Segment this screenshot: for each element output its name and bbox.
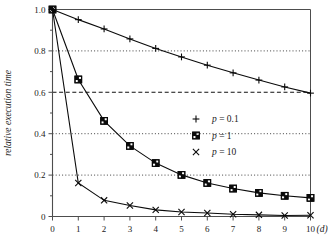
data-point-marker: [101, 118, 108, 125]
data-point-marker: [307, 90, 314, 97]
series-line: [53, 10, 311, 198]
x-axis-tick-label: 2: [102, 224, 107, 234]
x-axis-tick-label: 4: [153, 224, 158, 234]
series-2: [49, 6, 314, 201]
data-point-marker: [281, 193, 288, 200]
y-axis-tick-label: 0.2: [34, 170, 45, 180]
y-axis-tick-label: 0.4: [34, 129, 46, 139]
x-axis-tick-label: 5: [179, 224, 184, 234]
series-3: [49, 6, 313, 218]
legend-label-3: p = 10: [211, 147, 237, 157]
data-point-marker: [152, 160, 159, 167]
x-axis-tick-label: 7: [231, 224, 236, 234]
legend-marker-3: [193, 149, 199, 155]
data-point-marker: [204, 180, 211, 187]
x-axis-tick-label: 6: [205, 224, 210, 234]
data-point-marker: [178, 54, 185, 61]
chart-legend: p = 0.1p = 1p = 10: [193, 114, 239, 157]
data-point-marker: [230, 69, 237, 76]
legend-label-1: p = 0.1: [211, 114, 239, 124]
data-point-marker: [204, 62, 211, 69]
series-group: [49, 6, 314, 218]
data-point-marker: [281, 84, 288, 91]
gridlines-group: [53, 51, 311, 175]
data-point-marker: [75, 16, 82, 23]
data-point-marker: [152, 45, 159, 52]
x-axis-unit-label: (d): [317, 224, 328, 235]
chart-container: 00.20.40.60.81.0012345678910relative exe…: [0, 0, 333, 247]
x-axis-tick-label: 1: [76, 224, 81, 234]
line-chart: 00.20.40.60.81.0012345678910relative exe…: [0, 0, 333, 247]
x-axis-tick-label: 3: [128, 224, 133, 234]
x-axis-tick-label: 9: [282, 224, 287, 234]
plot-frame: [53, 10, 311, 217]
data-point-marker: [127, 143, 134, 150]
data-point-marker: [127, 35, 134, 42]
x-axis-tick-label: 0: [50, 224, 55, 234]
legend-marker-1: [193, 116, 200, 123]
data-point-marker: [307, 195, 314, 202]
data-point-marker: [178, 172, 185, 179]
data-point-marker: [75, 76, 82, 83]
data-point-marker: [101, 26, 108, 33]
y-axis-tick-label: 0.8: [34, 46, 46, 56]
y-axis-tick-label: 0.6: [34, 88, 46, 98]
legend-marker-2: [193, 132, 200, 139]
y-axis-tick-label: 0: [41, 212, 46, 222]
x-axis-tick-label: 8: [257, 224, 262, 234]
data-point-marker: [256, 190, 263, 197]
legend-label-2: p = 1: [211, 131, 232, 141]
x-axis-tick-label: 10: [306, 224, 316, 234]
data-point-marker: [230, 185, 237, 192]
y-axis-title: relative execution time: [3, 70, 13, 156]
axis-labels-group: 00.20.40.60.81.0012345678910relative exe…: [3, 5, 328, 235]
series-line: [53, 10, 311, 216]
plot-border: [53, 10, 311, 217]
y-axis-tick-label: 1.0: [34, 5, 46, 15]
data-point-marker: [256, 77, 263, 84]
